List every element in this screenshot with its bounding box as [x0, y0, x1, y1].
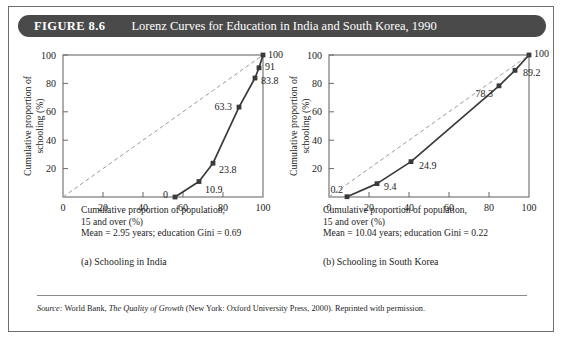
svg-text:20: 20: [312, 163, 322, 174]
source-publisher: World Bank,: [63, 304, 109, 313]
source-divider: [37, 295, 527, 296]
svg-text:100: 100: [307, 50, 322, 61]
chart-india: 20406080100020406080100Cumulative propor…: [15, 41, 288, 226]
axis-caption-line2: 15 and over (%): [81, 216, 241, 228]
source-title: The Quality of Growth: [109, 304, 184, 313]
axis-caption-line1: Cumulative proportion of population,: [81, 204, 241, 216]
panel-india: 20406080100020406080100Cumulative propor…: [15, 41, 288, 291]
subcaption-india: (a) Schooling in India: [81, 256, 167, 267]
figure-title: Lorenz Curves for Education in India and…: [131, 19, 436, 34]
svg-text:80: 80: [46, 78, 56, 89]
figure-header-bar: FIGURE 8.6 Lorenz Curves for Education i…: [18, 15, 546, 37]
svg-text:78.3: 78.3: [476, 88, 494, 99]
chart-south-korea-svg: 20406080100020406080100Cumulative propor…: [281, 41, 554, 226]
svg-text:40: 40: [46, 135, 56, 146]
subcaption-south-korea: (b) Schooling in South Korea: [323, 256, 438, 267]
svg-text:0.2: 0.2: [331, 184, 344, 195]
svg-text:63.3: 63.3: [215, 101, 233, 112]
svg-text:24.9: 24.9: [419, 160, 437, 171]
svg-text:schooling (%): schooling (%): [34, 98, 46, 153]
svg-text:20: 20: [46, 163, 56, 174]
svg-text:0: 0: [61, 202, 66, 213]
svg-text:80: 80: [312, 78, 322, 89]
svg-text:91: 91: [265, 61, 275, 72]
svg-text:100: 100: [41, 50, 56, 61]
panel-south-korea: 20406080100020406080100Cumulative propor…: [281, 41, 554, 291]
figure-number: FIGURE 8.6: [34, 19, 105, 34]
svg-text:23.8: 23.8: [219, 164, 237, 175]
svg-text:9.4: 9.4: [384, 181, 397, 192]
source-note: Source: World Bank, The Quality of Growt…: [37, 303, 537, 314]
axis-caption-line3: Mean = 2.95 years; education Gini = 0.69: [81, 227, 241, 239]
axis-caption-india: Cumulative proportion of population, 15 …: [81, 204, 241, 239]
source-rest: (New York: Oxford University Press, 2000…: [184, 304, 425, 313]
svg-text:schooling (%): schooling (%): [300, 98, 312, 153]
svg-text:Cumulative proportion of: Cumulative proportion of: [288, 75, 299, 176]
svg-text:83.8: 83.8: [261, 75, 279, 86]
chart-south-korea: 20406080100020406080100Cumulative propor…: [281, 41, 554, 226]
chart-panels: 20406080100020406080100Cumulative propor…: [9, 41, 555, 291]
axis-caption-line1: Cumulative proportion of population,: [323, 204, 488, 216]
axis-caption-line3: Mean = 10.04 years; education Gini = 0.2…: [323, 227, 488, 239]
source-label: Source:: [37, 304, 63, 313]
axis-caption-line2: 15 and over (%): [323, 216, 488, 228]
svg-text:10.9: 10.9: [205, 184, 223, 195]
chart-india-svg: 20406080100020406080100Cumulative propor…: [15, 41, 288, 226]
svg-text:89.2: 89.2: [523, 67, 541, 78]
svg-text:100: 100: [534, 48, 549, 59]
figure-container: FIGURE 8.6 Lorenz Curves for Education i…: [8, 6, 554, 332]
svg-text:60: 60: [46, 106, 56, 117]
svg-text:Cumulative proportion of: Cumulative proportion of: [22, 75, 33, 176]
svg-text:100: 100: [522, 202, 537, 213]
svg-text:100: 100: [256, 202, 271, 213]
svg-text:60: 60: [312, 106, 322, 117]
axis-caption-south-korea: Cumulative proportion of population, 15 …: [323, 204, 488, 239]
svg-text:40: 40: [312, 135, 322, 146]
svg-text:0: 0: [163, 189, 168, 200]
